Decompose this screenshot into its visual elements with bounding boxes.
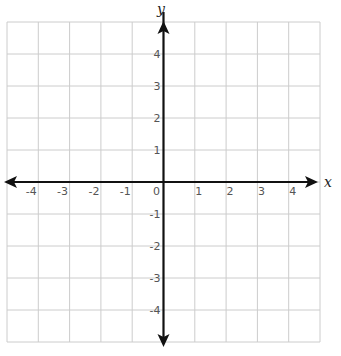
x-tick-label: 1	[195, 185, 202, 198]
y-tick-label: -4	[150, 304, 161, 317]
coordinate-plane: -4-3-2-1012344321-1-2-3-4 x y	[0, 0, 341, 356]
x-tick-label: -1	[120, 185, 131, 198]
x-tick-label: -4	[26, 185, 37, 198]
x-tick-label: 4	[289, 185, 296, 198]
y-tick-label: 1	[154, 144, 161, 157]
y-tick-label: 3	[154, 80, 161, 93]
x-axis-label: x	[324, 174, 332, 190]
y-axis-label: y	[156, 1, 166, 17]
y-tick-label: 2	[154, 112, 161, 125]
x-tick-label: -3	[57, 185, 68, 198]
x-tick-label: 3	[258, 185, 265, 198]
y-tick-label: -3	[150, 272, 161, 285]
axes	[4, 12, 318, 347]
y-tick-label: 4	[154, 48, 161, 61]
y-tick-label: -2	[150, 240, 161, 253]
x-tick-label: 0	[153, 185, 160, 198]
x-tick-label: 2	[227, 185, 234, 198]
x-tick-label: -2	[88, 185, 99, 198]
y-tick-label: -1	[150, 208, 161, 221]
